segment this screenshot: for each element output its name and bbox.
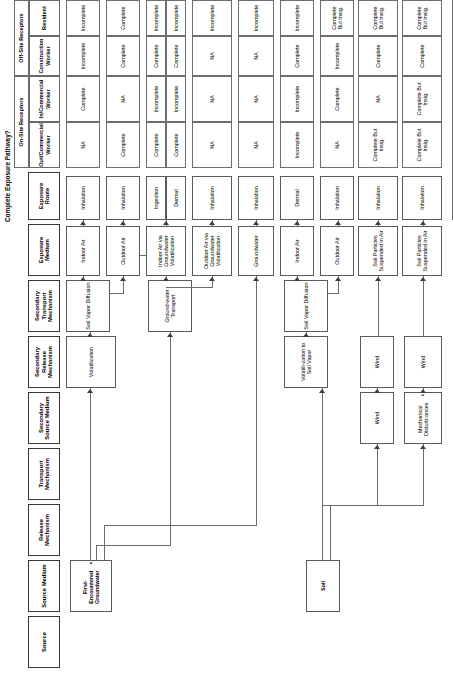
receptor-cell-p5-resident: Incomplete	[238, 0, 274, 36]
column-header-exposure-medium: Exposure Medium	[28, 224, 60, 276]
receptor-cell-p4-construction: NA	[192, 36, 232, 76]
node-soil-vapor-diffusion-2: Soil Vapor Diffusion	[284, 280, 328, 332]
node-mechanical-disturbances: Mechanical Disturb-ancesb	[404, 392, 442, 444]
node-soil-vapor-diffusion: Soil Vapor Diffusion	[66, 280, 110, 332]
column-header-secondary-release-mechanism: Secondary Release Mechanism	[28, 336, 60, 388]
receptor-cell-p4-incommercial: NA	[192, 76, 232, 122]
receptor-cell-p8-incommercial: NA	[358, 76, 398, 122]
receptor-cell-p3a-outcommercial: Complete	[146, 122, 166, 168]
receptor-cell-p3b-incommercial: Incomplete	[166, 76, 186, 122]
exposure-route-p2: Inhalation	[106, 176, 140, 220]
receptor-cell-p8-outcommercial: Complete But Insig.	[358, 122, 398, 168]
receptor-cell-p5-construction: NA	[238, 36, 274, 76]
receptor-cell-p7-construction: Incomplete	[320, 36, 354, 76]
exposure-route-p5: Inhalation	[238, 176, 274, 220]
receptor-cell-p4-outcommercial: NA	[192, 122, 232, 168]
node-outdoor-air-2: Outdoor Air	[320, 226, 354, 276]
exposure-route-p3b: Dermal	[166, 176, 186, 220]
receptor-cell-p9-construction: Complete	[402, 36, 442, 76]
receptor-cell-p3a-incommercial: Incomplete	[146, 76, 166, 122]
receptor-cell-p7-outcommercial: NA	[320, 122, 354, 168]
receptor-cell-p5-incommercial: NA	[238, 76, 274, 122]
receptor-cell-p6-resident: Incomplete	[280, 0, 314, 36]
receptor-column-header-construction-worker: Construction Worker	[29, 36, 60, 76]
receptor-cell-p4-resident: Incomplete	[192, 0, 232, 36]
node-wind-2: Wind	[360, 336, 394, 388]
receptor-cell-p1-incommercial: Complete	[66, 76, 100, 122]
receptor-cell-p7-resident: Complete But Insig.	[320, 0, 354, 36]
footnote-marker-b: b	[421, 394, 426, 396]
column-header-transport-mechanism: Transport Mechanism	[28, 448, 60, 500]
receptor-cell-p3b-resident: Incomplete	[166, 0, 186, 36]
exposure-route-p3a: Ingestion	[146, 176, 166, 220]
page-title: Complete Exposure Pathway?	[4, 130, 11, 222]
node-mechanical-disturbances-label: Mechanical Disturb-ances	[417, 396, 429, 442]
receptor-cell-p7-incommercial: Complete	[320, 76, 354, 122]
receptor-cell-p8-resident: Complete But Insig.	[358, 0, 398, 36]
node-indoor-air: Indoor Air	[66, 226, 100, 276]
exposure-route-p9: Inhalation	[402, 176, 442, 220]
receptor-group-header-on-site: On-Site Receptors	[14, 76, 29, 168]
node-groundwater-exposure-medium: Groundwater	[238, 226, 274, 276]
receptor-cell-p5-outcommercial: NA	[238, 122, 274, 168]
node-wind-1: Wind	[360, 392, 394, 444]
receptor-cell-p9-incommercial: Complete But Insig.	[402, 76, 442, 122]
source-node-label: First-Encountered Groundwater	[82, 564, 100, 610]
node-outdoor-air-via-groundwater-volatilization: Outdoor Air via Groundwater Volatilizati…	[192, 226, 232, 276]
receptor-cell-p3b-outcommercial: Complete	[166, 122, 186, 168]
column-header-release-mechanism: Release Mechanism	[28, 504, 60, 556]
node-outdoor-air: Outdoor Air	[106, 226, 140, 276]
column-header-secondary-source-medium: Secondary Source Medium	[28, 392, 60, 444]
footnote-marker-a: a	[89, 562, 94, 564]
receptor-cell-p3b-construction: Complete	[166, 36, 186, 76]
receptor-cell-p2-resident: Complete	[106, 0, 140, 36]
receptor-cell-p2-outcommercial: Complete	[106, 122, 140, 168]
exposure-route-p8: Inhalation	[358, 176, 398, 220]
receptor-cell-p6-construction: Complete	[280, 36, 314, 76]
receptor-cell-p6-incommercial: Incomplete	[280, 76, 314, 122]
source-node-first-encountered-groundwater: First-Encountered Groundwatera	[70, 560, 112, 612]
column-header-exposure-route: Exposure Route	[28, 172, 60, 220]
receptor-cell-p1-construction: Incomplete	[66, 36, 100, 76]
receptor-cell-p1-resident: Incomplete	[66, 0, 100, 36]
receptor-cell-p1-outcommercial: NA	[66, 122, 100, 168]
receptor-column-header-resident: Resident	[29, 0, 60, 36]
column-header-source-medium: Source Medium	[28, 560, 60, 612]
exposure-route-p6: Dermal	[280, 176, 314, 220]
receptor-cell-p3a-construction: Complete	[146, 36, 166, 76]
node-volatilization: Volatilization	[66, 336, 116, 388]
receptor-cell-p6-outcommercial: Incomplete	[280, 122, 314, 168]
column-header-secondary-transport-mechanism: Secondary Transport Mechanism	[28, 280, 60, 332]
receptor-cell-p3a-resident: Incomplete	[146, 0, 166, 36]
receptor-column-header-incommercial-worker: In/Commercial Worker	[29, 76, 60, 122]
receptor-column-header-outcommercial-worker: Out/Commercial Worker	[29, 122, 60, 168]
node-indoor-air-via-groundwater-volatilization: Indoor Air via Groundwater Volatilizatio…	[146, 226, 186, 276]
exposure-route-p4: Inhalation	[192, 176, 232, 220]
receptor-cell-p9-outcommercial: Complete But Insig.	[402, 122, 442, 168]
receptor-cell-p8-construction: Complete	[358, 36, 398, 76]
receptor-cell-p2-incommercial: NA	[106, 76, 140, 122]
node-soil-particles-suspended-in-air-2: Soil Particles Suspended in Air	[402, 226, 442, 276]
receptor-cell-p2-construction: Complete	[106, 36, 140, 76]
exposure-route-p1: Inhalation	[66, 176, 100, 220]
receptor-cell-p9-resident: Complete But Insig.	[402, 0, 442, 36]
node-volatilization-to-soil-vapor: Volatili-zation to Soil Vapor	[284, 336, 328, 388]
node-soil-particles-suspended-in-air-1: Soil Particles Suspended in Air	[358, 226, 398, 276]
exposure-route-p7: Inhalation	[320, 176, 354, 220]
node-wind-3: Wind	[404, 336, 442, 388]
column-header-source: Source	[28, 616, 60, 668]
source-node-soil: Soil	[306, 560, 340, 612]
node-indoor-air-2: Indoor Air	[280, 226, 314, 276]
receptor-group-header-off-site: Off-Site Receptors	[14, 0, 29, 76]
